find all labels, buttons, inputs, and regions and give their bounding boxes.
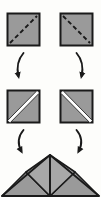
top-right-square xyxy=(61,14,93,46)
paper-folding-diagram xyxy=(0,0,101,197)
top-left-square xyxy=(8,14,40,46)
diagram-canvas xyxy=(0,0,101,197)
middle-right-square xyxy=(61,91,93,123)
middle-left-square xyxy=(8,91,40,123)
